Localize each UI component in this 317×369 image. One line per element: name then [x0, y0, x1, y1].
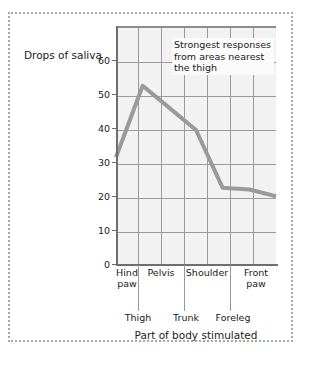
- y-tick-mark-10: [112, 230, 116, 231]
- annotation-line-1: Strongest responses: [174, 39, 271, 50]
- y-tick-label-40: 40: [98, 123, 110, 134]
- page-card: Drops of saliva: [8, 12, 293, 342]
- y-tick-label-30: 30: [98, 157, 110, 168]
- y-axis-title: Drops of saliva: [24, 49, 102, 61]
- y-tick-label-20: 20: [98, 191, 110, 202]
- x-label-foreleg: Foreleg: [216, 312, 251, 323]
- y-tick-mark-0: [112, 264, 116, 265]
- x-label-front-paw: Front paw: [244, 267, 268, 289]
- x-label-hind-paw-line1: Hind: [116, 267, 138, 278]
- plot-wrapper: 60 50 40 30 20 10 0 Strongest responses …: [116, 26, 276, 264]
- x-label-hind-paw: Hind paw: [116, 267, 138, 289]
- chart-figure: Drops of saliva: [10, 14, 295, 344]
- annotation-line-2: from areas nearest: [174, 51, 264, 62]
- x-label-shoulder: Shoulder: [186, 267, 228, 278]
- y-tick-mark-20: [112, 196, 116, 197]
- annotation-line-3: the thigh: [174, 62, 217, 73]
- x-label-front-paw-line2: paw: [244, 278, 268, 289]
- x-label-front-paw-line1: Front: [244, 267, 268, 278]
- y-tick-mark-30: [112, 162, 116, 163]
- x-separator-2: [184, 265, 185, 311]
- y-tick-label-50: 50: [98, 89, 110, 100]
- x-axis-title: Part of body stimulated: [135, 329, 258, 341]
- x-label-thigh: Thigh: [125, 312, 152, 323]
- y-tick-label-10: 10: [98, 225, 110, 236]
- x-separator-1: [138, 265, 139, 311]
- x-label-trunk: Trunk: [173, 312, 199, 323]
- y-tick-mark-60: [112, 60, 116, 61]
- y-tick-label-60: 60: [98, 55, 110, 66]
- y-axis-line: [116, 26, 118, 264]
- y-tick-mark-40: [112, 128, 116, 129]
- x-separator-3: [230, 265, 231, 311]
- chart-annotation: Strongest responses from areas nearest t…: [172, 38, 274, 75]
- y-tick-mark-50: [112, 94, 116, 95]
- x-label-hind-paw-line2: paw: [116, 278, 138, 289]
- x-label-pelvis: Pelvis: [147, 267, 174, 278]
- x-axis-line: [116, 264, 278, 266]
- y-tick-label-0: 0: [104, 259, 110, 270]
